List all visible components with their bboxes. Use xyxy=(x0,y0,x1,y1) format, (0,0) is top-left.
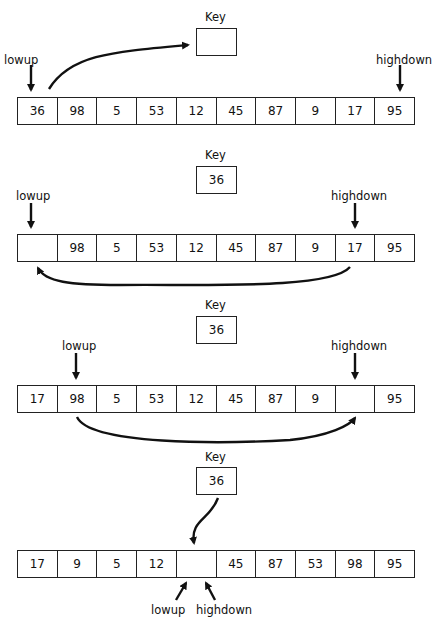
move-left-arrow-icon xyxy=(38,267,350,285)
lowup-arrow-icon xyxy=(176,583,186,600)
highdown-arrow-icon xyxy=(206,583,215,600)
key-insert-arrow-icon xyxy=(193,498,218,543)
move-to-key-arrow-icon xyxy=(49,45,188,89)
move-right-arrow-icon xyxy=(77,417,355,442)
